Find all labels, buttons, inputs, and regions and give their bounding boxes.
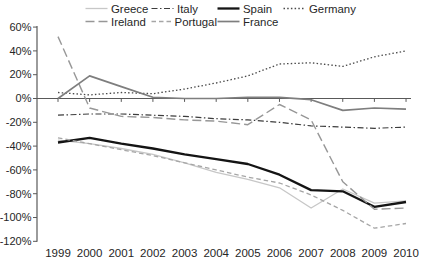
x-axis-label: 2002 (140, 247, 166, 259)
legend-label: Ireland (111, 16, 146, 28)
x-axis-label: 2003 (172, 247, 198, 259)
legend-label: Italy (177, 3, 198, 15)
line-chart-figure: 60%40%20%0%-20%-40%-60%-80%-100%-120%199… (0, 0, 429, 266)
legend-item-spain: Spain (217, 3, 283, 15)
x-axis-label: 1999 (45, 247, 71, 259)
y-axis-label: -120% (0, 235, 32, 247)
y-axis-label: -20% (6, 116, 32, 128)
legend-item-portugal: Portugal (151, 16, 217, 28)
y-axis-label: 0% (16, 92, 32, 104)
x-axis-label: 2006 (267, 247, 293, 259)
legend-line-sample-icon (85, 4, 108, 13)
legend-label: Greece (111, 3, 148, 15)
legend-row: IrelandPortugalFrance (85, 15, 356, 28)
legend-line-sample-icon (151, 4, 174, 13)
x-axis-label: 2008 (330, 247, 356, 259)
x-axis-label: 2010 (393, 247, 419, 259)
x-axis-label: 2007 (298, 247, 324, 259)
chart-svg: 60%40%20%0%-20%-40%-60%-80%-100%-120%199… (0, 0, 429, 266)
x-axis-label: 2004 (203, 247, 229, 259)
legend-label: Spain (243, 3, 272, 15)
legend-line-sample-icon (85, 17, 108, 26)
x-axis-label: 2005 (235, 247, 261, 259)
legend-row: GreeceItalySpainGermany (85, 2, 356, 15)
legend-item-italy: Italy (151, 3, 217, 15)
legend-label: Portugal (175, 16, 217, 28)
x-axis-label: 2000 (77, 247, 103, 259)
legend-line-sample-icon (217, 4, 240, 13)
y-axis-label: -100% (0, 211, 32, 223)
legend-item-france: France (217, 16, 278, 28)
y-axis-label: -60% (6, 164, 32, 176)
legend-item-germany: Germany (283, 3, 356, 15)
legend-line-sample-icon (151, 17, 172, 26)
legend-line-sample-icon (283, 4, 306, 13)
series-line-portugal (58, 138, 406, 228)
legend-item-greece: Greece (85, 3, 151, 15)
y-axis-label: 20% (9, 68, 31, 80)
legend-line-sample-icon (217, 17, 240, 26)
y-axis-label: -40% (6, 140, 32, 152)
y-axis-label: 40% (9, 45, 31, 57)
legend-label: Germany (309, 3, 356, 15)
y-axis-label: 60% (9, 21, 31, 33)
series-line-italy (58, 114, 406, 128)
series-line-germany (58, 51, 406, 95)
legend: GreeceItalySpainGermanyIrelandPortugalFr… (85, 2, 356, 28)
x-axis-label: 2009 (362, 247, 388, 259)
y-axis-label: -80% (6, 188, 32, 200)
x-axis-label: 2001 (108, 247, 134, 259)
legend-label: France (243, 16, 278, 28)
legend-item-ireland: Ireland (85, 16, 151, 28)
